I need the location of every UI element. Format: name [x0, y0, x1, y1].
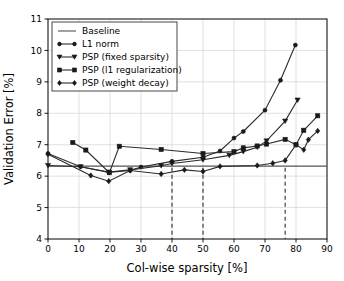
x-axis-title: Col-wise sparsity [%]: [127, 261, 248, 275]
data-point-marker-circle: [263, 108, 267, 112]
y-tick-label: 10: [31, 46, 43, 56]
chart-figure: 0102030405060708090 4567891011 Col-wise …: [0, 0, 344, 281]
y-tick-label: 9: [36, 77, 42, 87]
data-point-marker-square: [71, 140, 75, 144]
y-tick-label: 7: [36, 140, 42, 150]
data-point-marker-square: [255, 144, 259, 148]
data-point-marker-circle: [279, 78, 283, 82]
data-point-marker-circle: [73, 42, 77, 46]
data-point-marker-square: [84, 148, 88, 152]
x-tick-label: 60: [228, 244, 240, 254]
y-tick-label: 11: [31, 14, 42, 24]
x-tick-label: 40: [166, 244, 178, 254]
data-point-marker-square: [201, 151, 205, 155]
x-tick-label: 20: [104, 244, 116, 254]
chart-legend: BaselineL1 normPSP (fixed sparsity)PSP (…: [52, 22, 182, 91]
data-point-marker-circle: [58, 42, 62, 46]
y-tick-label: 5: [36, 203, 42, 213]
x-tick-label: 50: [197, 244, 209, 254]
legend-label: Baseline: [82, 26, 121, 36]
legend-label: PSP (weight decay): [82, 78, 169, 88]
data-point-marker-square: [232, 150, 236, 154]
y-tick-label: 8: [36, 108, 42, 118]
legend-label: PSP (fixed sparsity): [82, 52, 169, 62]
x-tick-label: 80: [290, 244, 302, 254]
data-point-marker-square: [316, 114, 320, 118]
data-point-marker-square: [58, 68, 62, 72]
data-point-marker-square: [73, 68, 77, 72]
data-point-marker-circle: [293, 43, 297, 47]
legend-label: PSP (l1 regularization): [82, 65, 182, 75]
data-point-marker-square: [107, 171, 111, 175]
x-tick-label: 30: [135, 244, 147, 254]
y-tick-label: 6: [36, 171, 42, 181]
legend-label: L1 norm: [82, 39, 119, 49]
data-point-marker-circle: [241, 130, 245, 134]
y-tick-label: 4: [36, 234, 42, 244]
x-tick-label: 70: [259, 244, 271, 254]
y-axis-title: Validation Error [%]: [2, 73, 16, 185]
x-tick-label: 90: [321, 244, 333, 254]
data-point-marker-square: [117, 144, 121, 148]
x-tick-label: 0: [45, 244, 51, 254]
data-point-marker-square: [159, 147, 163, 151]
x-tick-label: 10: [73, 244, 85, 254]
data-point-marker-circle: [232, 136, 236, 140]
validation-error-line-chart: 0102030405060708090 4567891011 Col-wise …: [0, 0, 344, 281]
data-point-marker-square: [264, 142, 268, 146]
data-point-marker-square: [302, 128, 306, 132]
data-point-marker-square: [283, 137, 287, 141]
data-point-marker-square: [241, 146, 245, 150]
